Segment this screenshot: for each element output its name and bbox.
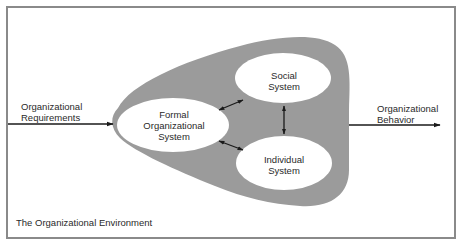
- individual-system-label: Individual System: [264, 154, 304, 176]
- formal-line1: Formal: [143, 109, 204, 120]
- social-line1: Social: [268, 70, 300, 81]
- individual-line1: Individual: [264, 154, 304, 165]
- output-label: Organizational Behavior: [377, 103, 438, 125]
- input-label-line1: Organizational: [21, 101, 82, 112]
- formal-line2: Organizational: [143, 120, 204, 131]
- social-system-label: Social System: [268, 70, 300, 92]
- output-label-line2: Behavior: [377, 114, 438, 125]
- input-label: Organizational Requirements: [21, 101, 82, 123]
- social-line2: System: [268, 81, 300, 92]
- formal-organizational-system-label: Formal Organizational System: [143, 109, 204, 142]
- individual-line2: System: [264, 165, 304, 176]
- output-label-line1: Organizational: [377, 103, 438, 114]
- input-label-line2: Requirements: [21, 112, 82, 123]
- environment-label: The Organizational Environment: [16, 217, 152, 228]
- formal-line3: System: [143, 131, 204, 142]
